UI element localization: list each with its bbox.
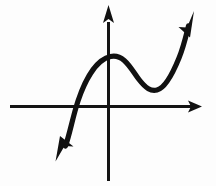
cubic-graph-figure [0, 0, 216, 186]
graph-canvas [0, 0, 216, 186]
